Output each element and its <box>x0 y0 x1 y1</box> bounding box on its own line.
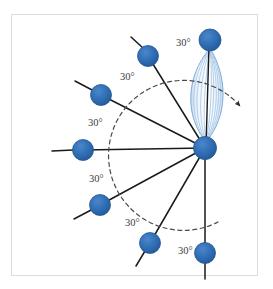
node-left <box>73 140 94 161</box>
orbital-lens <box>191 46 223 146</box>
bond-tail-left-lower <box>74 209 93 219</box>
node-bottom <box>195 243 216 264</box>
angle-label-4: 30° <box>89 173 104 184</box>
angle-label-1: 30° <box>176 37 191 48</box>
angle-label-3: 30° <box>88 117 103 128</box>
node-left-upper <box>91 85 112 106</box>
figure-root: 30° 30° 30° 30° 30° 30° <box>0 0 273 289</box>
bond-tail-left-upper <box>75 81 94 91</box>
bond-line-left <box>83 148 205 150</box>
central-atom <box>194 137 217 160</box>
bond-tail-upper-left <box>131 37 143 48</box>
angle-labels-group: 30° 30° 30° 30° 30° 30° <box>88 37 193 256</box>
node-top <box>199 29 221 51</box>
bond-tail-lower-left <box>136 251 145 266</box>
angle-label-6: 30° <box>178 245 193 256</box>
bond-lines-group <box>83 40 210 253</box>
node-left-lower <box>90 195 111 216</box>
bond-angle-diagram: 30° 30° 30° 30° 30° 30° <box>0 0 273 289</box>
node-upper-left <box>138 46 159 67</box>
bond-tail-left <box>52 150 73 151</box>
angle-label-5: 30° <box>125 217 140 228</box>
angle-label-2: 30° <box>120 71 135 82</box>
node-lower-left <box>140 233 161 254</box>
